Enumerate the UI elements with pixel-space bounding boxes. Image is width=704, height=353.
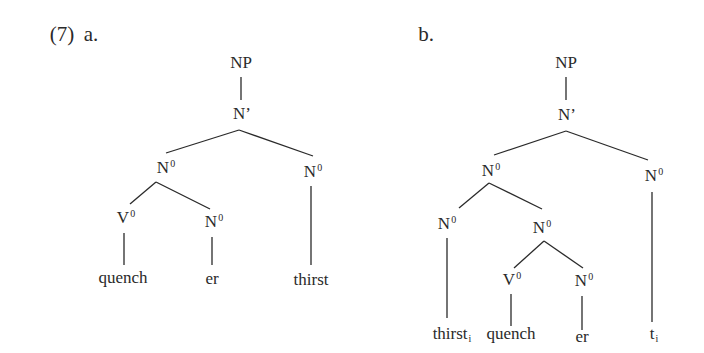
- node-n0-suffix: N0: [575, 271, 593, 291]
- word-er: er: [575, 327, 588, 347]
- node-nbar: N’: [233, 104, 251, 124]
- edge-a-n0-v0: [130, 182, 156, 204]
- node-np: NP: [230, 53, 252, 73]
- example-number: (7): [50, 22, 75, 47]
- word-thirst: thirst: [294, 270, 329, 290]
- tree-edges: [0, 0, 704, 353]
- edge-b-n0-n0inner: [489, 183, 542, 209]
- node-n0-right: N0: [304, 162, 322, 182]
- node-v0: V0: [503, 270, 521, 290]
- subexample-a-label: a.: [84, 22, 99, 47]
- node-n0-inner: N0: [533, 218, 551, 238]
- node-n0-right: N0: [645, 166, 663, 186]
- edge-b-n0-n0inc: [459, 183, 489, 208]
- node-n0-incorporated: N0: [438, 214, 456, 234]
- word-er: er: [205, 269, 218, 289]
- node-np: NP: [555, 53, 577, 73]
- node-v0: V0: [117, 208, 135, 228]
- edge-b-nbar-n0right: [566, 131, 648, 160]
- edge-b-n0inner-v0: [514, 241, 544, 268]
- edge-a-n0-n0suffix: [156, 182, 210, 209]
- node-nbar: N’: [558, 105, 576, 125]
- word-quench: quench: [486, 324, 535, 344]
- word-quench: quench: [98, 268, 147, 288]
- edge-b-nbar-n0left: [494, 131, 566, 155]
- word-trace: ti: [650, 324, 659, 344]
- node-n0-suffix: N0: [205, 212, 223, 232]
- edge-a-nbar-n0left: [166, 130, 239, 153]
- node-n0-compound: N0: [482, 161, 500, 181]
- subexample-b-label: b.: [418, 22, 434, 47]
- edge-a-nbar-n0right: [239, 130, 313, 156]
- word-thirst-indexed: thirsti: [433, 324, 472, 344]
- node-n0-compound: N0: [157, 158, 175, 178]
- edge-b-n0inner-n0suffix: [544, 241, 583, 268]
